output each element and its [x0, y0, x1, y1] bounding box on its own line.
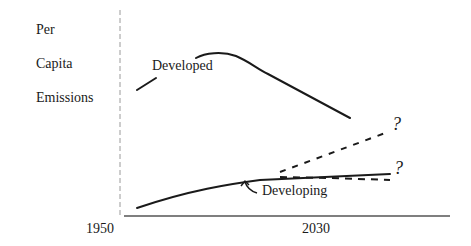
x-tick-1950: 1950 [86, 221, 114, 237]
developing-projection-high [280, 132, 388, 172]
developing-label: Developing [262, 183, 327, 199]
developed-label: Developed [152, 58, 213, 74]
developed-curve-start [137, 78, 156, 90]
developed-curve [196, 53, 350, 118]
question-mark-lower: ? [394, 158, 403, 179]
x-tick-2030: 2030 [302, 221, 330, 237]
question-mark-upper: ? [392, 114, 401, 135]
